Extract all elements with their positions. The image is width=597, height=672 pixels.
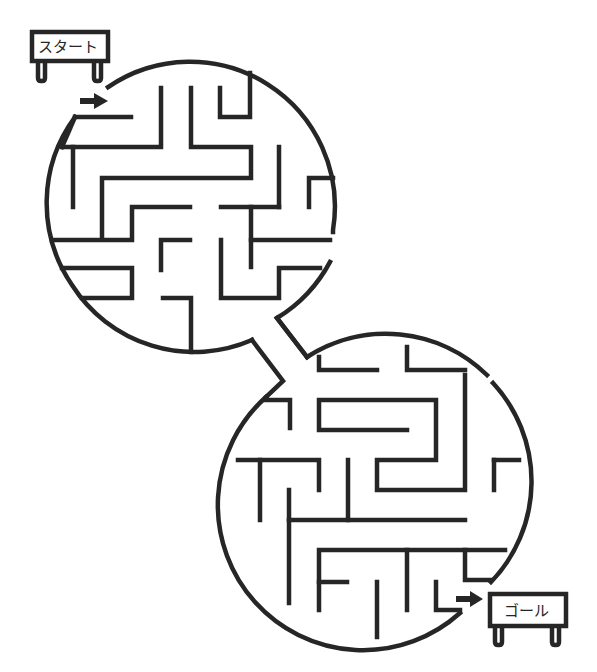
lower-circle-outline (218, 334, 532, 650)
start-sign-leg-right (94, 63, 101, 81)
lower-maze-walls (238, 347, 519, 637)
start-sign: スタート (32, 32, 108, 81)
start-label: スタート (38, 38, 98, 56)
goal-sign-leg-left (495, 628, 502, 645)
goal-label: ゴール (504, 602, 549, 620)
start-sign-leg-left (38, 63, 45, 81)
corridor-wall-left (252, 340, 283, 397)
goal-arrow-icon (456, 591, 483, 607)
start-arrow-icon (80, 93, 108, 109)
maze-board: スタート (0, 0, 597, 672)
goal-sign-leg-right (552, 628, 559, 645)
goal-sign: ゴール (490, 594, 566, 645)
corridor-wall-right (277, 318, 307, 357)
